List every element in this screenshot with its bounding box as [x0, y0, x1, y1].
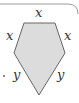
label-top-side: x	[35, 5, 43, 20]
label-upper-left-side: x	[6, 28, 14, 43]
label-lower-right-side: y	[56, 67, 65, 82]
dot-marker	[3, 75, 5, 77]
pentagon-diagram: x x x y y	[0, 0, 79, 103]
label-lower-left-side: y	[12, 67, 21, 82]
pentagon-shape	[14, 23, 65, 95]
label-upper-right-side: x	[64, 28, 72, 43]
